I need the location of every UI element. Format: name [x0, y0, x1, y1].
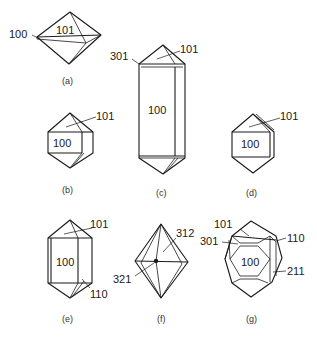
crystal-figure: 100 101 (a) 101 100 (b) 101 301 100 (c) — [0, 0, 317, 337]
face-label: 110 — [287, 232, 305, 244]
panel-caption: (c) — [156, 188, 167, 198]
face-label: 101 — [180, 43, 198, 55]
face-label: 101 — [96, 110, 114, 122]
face-label: 100 — [241, 138, 259, 150]
face-label: 100 — [56, 256, 74, 268]
face-label: 110 — [90, 288, 108, 300]
face-label: 101 — [90, 218, 108, 230]
crystal-a: 100 101 (a) — [9, 12, 101, 86]
crystal-c: 101 301 100 (c) — [110, 43, 198, 198]
crystal-f: 312 321 (f) — [113, 224, 194, 324]
crystal-d: 101 100 (d) — [232, 110, 298, 198]
panel-caption: (a) — [62, 76, 73, 86]
face-label: 211 — [287, 265, 305, 277]
face-label: 100 — [148, 104, 166, 116]
face-label: 101 — [56, 24, 74, 36]
face-label: 100 — [9, 28, 27, 40]
face-label: 312 — [176, 227, 194, 239]
face-label: 301 — [200, 235, 218, 247]
panel-caption: (d) — [246, 188, 257, 198]
face-label: 100 — [53, 137, 71, 149]
face-label: 101 — [280, 110, 298, 122]
crystal-g: 101 301 110 100 211 (g) — [200, 218, 305, 324]
panel-caption: (g) — [246, 314, 257, 324]
crystal-e: 101 100 110 (e) — [48, 218, 108, 324]
panel-caption: (f) — [157, 314, 166, 324]
face-label: 321 — [113, 273, 131, 285]
face-label: 301 — [110, 50, 128, 62]
panel-caption: (e) — [62, 314, 73, 324]
panel-caption: (b) — [62, 185, 73, 195]
face-label: 100 — [241, 256, 259, 268]
crystal-b: 101 100 (b) — [48, 110, 114, 195]
face-label: 101 — [214, 218, 232, 230]
